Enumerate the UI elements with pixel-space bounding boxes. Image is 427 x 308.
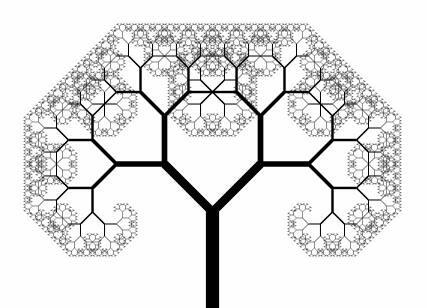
fractal-tree-canvas	[0, 0, 427, 308]
fractal-tree-figure	[0, 0, 427, 308]
